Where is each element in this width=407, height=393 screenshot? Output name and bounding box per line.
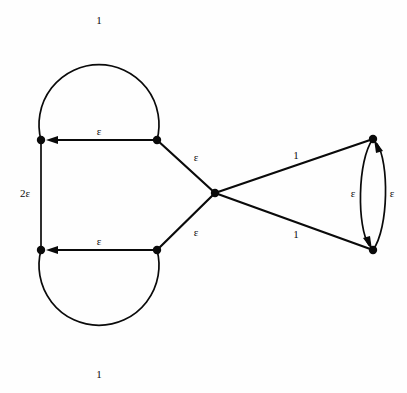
edge-label-top-circle: 1 [96,15,102,26]
edge-label-upper-diagonal: ε [194,152,199,163]
edge-upper-diagonal-path [157,140,215,193]
edge-label-top-horizontal: ε [97,126,102,137]
edge-right-arc-up-path [373,144,386,250]
edge-label-right-arc-down: ε [351,188,356,199]
graph-svg [0,0,407,393]
edge-bottom-horizontal-arrowhead-icon [46,246,58,254]
edge-label-right-arc-up: ε [390,188,395,199]
vertex-right-bottom-dot[interactable] [369,246,377,254]
edge-lower-right-path [215,193,373,250]
edge-upper-right-path [215,139,373,193]
edge-bottom-circle-path [39,250,159,325]
edge-label-upper-right: 1 [293,150,299,161]
edge-label-left-vertical: 2ε [20,188,30,199]
edge-lower-diagonal-path [157,193,215,250]
vertex-top-left-dot[interactable] [37,136,45,144]
edge-label-lower-diagonal: ε [194,227,199,238]
edge-right-arc-down-path [360,139,373,245]
vertex-top-mid-dot[interactable] [153,136,161,144]
edge-label-bottom-horizontal: ε [97,236,102,247]
vertex-bottom-mid-dot[interactable] [153,246,161,254]
edge-top-horizontal-arrowhead-icon [46,136,58,144]
edge-label-bottom-circle: 1 [96,369,102,380]
vertex-center-dot[interactable] [211,189,219,197]
vertex-bottom-left-dot[interactable] [37,246,45,254]
edge-label-lower-right: 1 [293,229,299,240]
vertex-right-top-dot[interactable] [369,135,377,143]
diagram-canvas: 1 ε 2ε 1 ε ε ε 1 1 ε ε [0,0,407,393]
